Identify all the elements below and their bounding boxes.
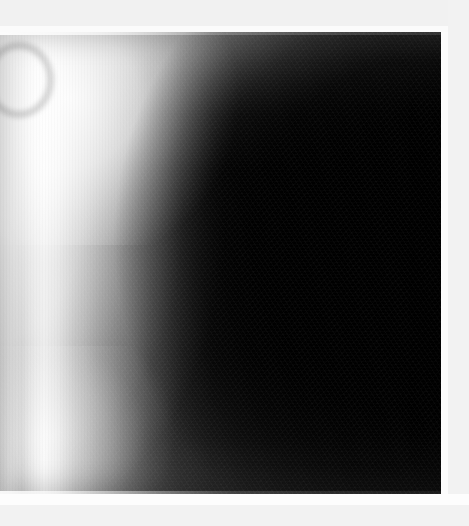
bottom-margin-white-strip: [0, 494, 469, 505]
plate-top-rim: [0, 32, 442, 35]
top-margin-band: [0, 0, 469, 26]
image-canvas: [0, 0, 469, 526]
bottom-margin-band: [0, 505, 469, 526]
edge-vignette: [0, 32, 442, 494]
right-margin-band: [448, 0, 469, 526]
radiograph-image: [0, 32, 442, 494]
right-margin-white-strip: [441, 32, 448, 494]
